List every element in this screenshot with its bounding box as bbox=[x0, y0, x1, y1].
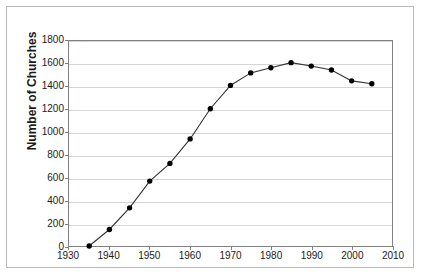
y-tick-label: 200 bbox=[24, 219, 64, 229]
y-tick-label: 800 bbox=[24, 150, 64, 160]
y-tick-label: 400 bbox=[24, 196, 64, 206]
x-tick-label: 1950 bbox=[127, 250, 171, 262]
chart-screenshot: Number of Churches 020040060080010001200… bbox=[0, 0, 421, 275]
x-tick-label: 1980 bbox=[249, 250, 293, 262]
y-tick-label: 1800 bbox=[24, 35, 64, 45]
x-tick-label: 2010 bbox=[371, 250, 415, 262]
y-tick-label: 1400 bbox=[24, 81, 64, 91]
plot-area bbox=[68, 40, 393, 247]
data-point-marker bbox=[329, 67, 334, 72]
x-tick-mark bbox=[149, 246, 150, 250]
data-point-marker bbox=[248, 70, 253, 75]
data-point-marker bbox=[127, 205, 132, 210]
x-tick-label: 1940 bbox=[87, 250, 131, 262]
y-tick-label: 1000 bbox=[24, 127, 64, 137]
data-point-marker bbox=[167, 161, 172, 166]
x-tick-label: 1990 bbox=[290, 250, 334, 262]
x-tick-label: 2000 bbox=[330, 250, 374, 262]
x-tick-label: 1960 bbox=[168, 250, 212, 262]
data-point-marker bbox=[208, 106, 213, 111]
data-point-marker bbox=[187, 136, 192, 141]
x-axis-tick-labels: 193019401950196019701980199020002010 bbox=[68, 250, 393, 266]
y-tick-label: 1600 bbox=[24, 58, 64, 68]
x-tick-mark bbox=[393, 246, 394, 250]
x-tick-label: 1970 bbox=[209, 250, 253, 262]
x-tick-mark bbox=[271, 246, 272, 250]
data-point-marker bbox=[288, 60, 293, 65]
line-series bbox=[69, 41, 392, 246]
x-tick-mark bbox=[68, 246, 69, 250]
x-tick-label: 1930 bbox=[46, 250, 90, 262]
data-point-marker bbox=[309, 63, 314, 68]
x-tick-mark bbox=[109, 246, 110, 250]
data-point-marker bbox=[228, 83, 233, 88]
data-point-marker bbox=[147, 178, 152, 183]
y-tick-label: 1200 bbox=[24, 104, 64, 114]
x-tick-mark bbox=[352, 246, 353, 250]
y-axis-tick-labels: 020040060080010001200140016001800 bbox=[22, 40, 64, 247]
data-point-marker bbox=[87, 243, 92, 248]
x-tick-mark bbox=[312, 246, 313, 250]
x-tick-mark bbox=[190, 246, 191, 250]
series-line bbox=[89, 63, 372, 246]
y-tick-label: 600 bbox=[24, 173, 64, 183]
x-tick-mark bbox=[231, 246, 232, 250]
data-point-marker bbox=[107, 227, 112, 232]
data-point-marker bbox=[369, 81, 374, 86]
data-point-marker bbox=[349, 78, 354, 83]
data-point-marker bbox=[268, 65, 273, 70]
